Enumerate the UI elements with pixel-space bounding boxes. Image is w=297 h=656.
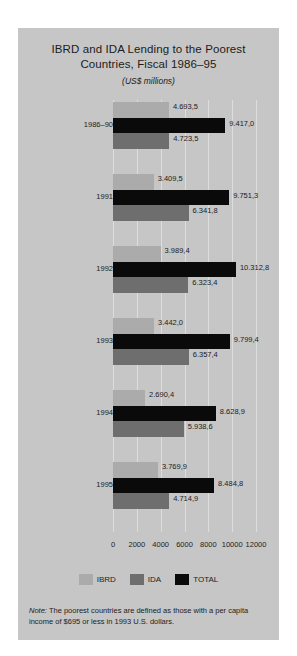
category-label: 1991 [53, 192, 113, 201]
chart-header: IBRD and IDA Lending to the Poorest Coun… [18, 28, 279, 86]
value-label-ibrd: 3.442,0 [158, 318, 183, 327]
x-tick-label: 10000 [222, 540, 243, 549]
bar-ida [113, 493, 169, 509]
chart-panel: IBRD and IDA Lending to the Poorest Coun… [18, 28, 279, 640]
note-label: Note: [29, 606, 47, 615]
legend-item-total[interactable]: TOTAL [175, 574, 218, 585]
value-label-ida: 4.714,9 [173, 494, 198, 503]
bar-total [113, 334, 230, 349]
plot-area: 1986–904.693,59.417,04.723,519913.409,59… [18, 100, 279, 540]
x-axis: 020004000600080001000012000 [18, 540, 279, 556]
category-label: 1986–90 [53, 120, 113, 129]
bar-group: 19942.690,48.628,95.938,6 [18, 388, 279, 442]
x-tick-label: 2000 [128, 540, 145, 549]
legend-swatch-total [175, 574, 189, 585]
bar-ida [113, 133, 169, 149]
value-label-ida: 5.938,6 [188, 422, 213, 431]
bar-total [113, 118, 225, 133]
bar-ibrd [113, 174, 154, 190]
category-label: 1994 [53, 408, 113, 417]
bar-ida [113, 277, 188, 293]
bar-ida [113, 349, 189, 365]
value-label-total: 10.312,8 [240, 263, 269, 272]
bar-group: 1986–904.693,59.417,04.723,5 [18, 100, 279, 154]
x-tick-label: 4000 [152, 540, 169, 549]
bar-ibrd [113, 462, 158, 478]
bar-total [113, 262, 236, 277]
value-label-ibrd: 4.693,5 [173, 102, 198, 111]
legend-item-ibrd[interactable]: IBRD [79, 574, 116, 585]
bar-group: 19923.989,410.312,86.323,4 [18, 244, 279, 298]
bar-ibrd [113, 246, 161, 262]
value-label-ibrd: 3.409,5 [158, 174, 183, 183]
value-label-ida: 6.341,8 [193, 206, 218, 215]
legend-label: IDA [148, 575, 161, 584]
chart-title-line-2: Countries, Fiscal 1986–95 [18, 57, 279, 72]
legend-item-ida[interactable]: IDA [130, 574, 161, 585]
bar-ibrd [113, 102, 169, 118]
legend-label: TOTAL [193, 575, 218, 584]
chart-note: Note: The poorest countries are defined … [29, 606, 269, 627]
bar-group: 19913.409,59.751,36.341,8 [18, 172, 279, 226]
chart-legend: IBRDIDATOTAL [18, 574, 279, 585]
bar-ibrd [113, 318, 154, 334]
value-label-total: 9.799,4 [234, 335, 259, 344]
chart-subtitle: (US$ millions) [18, 76, 279, 86]
value-label-total: 9.751,3 [233, 191, 258, 200]
bar-total [113, 478, 214, 493]
value-label-ida: 4.723,5 [173, 134, 198, 143]
x-tick-label: 6000 [176, 540, 193, 549]
x-tick-label: 12000 [246, 540, 267, 549]
value-label-ibrd: 3.989,4 [165, 246, 190, 255]
bar-total [113, 406, 216, 421]
value-label-total: 8.484,8 [218, 479, 243, 488]
x-tick-label: 0 [111, 540, 115, 549]
bar-total [113, 190, 229, 205]
legend-swatch-ida [130, 574, 144, 585]
category-label: 1995 [53, 480, 113, 489]
chart-title-line-1: IBRD and IDA Lending to the Poorest [18, 42, 279, 57]
value-label-ibrd: 3.769,9 [162, 462, 187, 471]
value-label-ida: 6.357,4 [193, 350, 218, 359]
note-body-line-2: income of $695 or less in 1993 U.S. doll… [29, 617, 174, 626]
bar-ida [113, 421, 184, 437]
category-label: 1993 [53, 336, 113, 345]
note-body-line-1: The poorest countries are defined as tho… [47, 606, 248, 615]
category-label: 1992 [53, 264, 113, 273]
bar-ibrd [113, 390, 145, 406]
value-label-total: 9.417,0 [229, 119, 254, 128]
legend-swatch-ibrd [79, 574, 93, 585]
value-label-ibrd: 2.690,4 [149, 390, 174, 399]
bar-group: 19953.769,98.484,84.714,9 [18, 460, 279, 514]
value-label-total: 8.628,9 [220, 407, 245, 416]
bar-group: 19933.442,09.799,46.357,4 [18, 316, 279, 370]
value-label-ida: 6.323,4 [192, 278, 217, 287]
bar-ida [113, 205, 189, 221]
legend-label: IBRD [97, 575, 116, 584]
x-tick-label: 8000 [200, 540, 217, 549]
